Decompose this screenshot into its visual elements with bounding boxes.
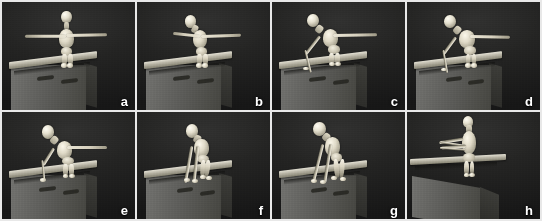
mannequin-d <box>407 2 540 110</box>
figure-panel-h: h <box>407 112 540 220</box>
mannequin-foot-joint <box>471 63 477 67</box>
panel-label-a: a <box>121 95 128 108</box>
mannequin-arm-far <box>469 35 509 39</box>
panel-label-b: b <box>255 95 263 108</box>
mannequin-foot-joint <box>202 63 208 67</box>
mannequin-foot-joint <box>61 63 67 67</box>
mannequin-hand-joint <box>320 180 326 184</box>
mannequin-foot-joint <box>206 176 212 180</box>
stage-g <box>272 112 405 220</box>
rendered-scene-e <box>2 112 135 220</box>
mannequin-hand-joint <box>192 179 198 183</box>
mannequin-arm-left <box>66 34 107 38</box>
mannequin-h <box>407 112 540 220</box>
mannequin-foot-joint <box>469 173 475 177</box>
mannequin-arm-near-upper <box>443 37 458 56</box>
figure-panel-f: f <box>137 112 270 220</box>
rendered-scene-f <box>137 112 270 220</box>
panel-label-g: g <box>390 204 398 217</box>
mannequin-arm-right-lower <box>440 147 465 151</box>
rendered-scene-b <box>137 2 270 110</box>
figure-panel-g: g <box>272 112 405 220</box>
mannequin-torso <box>57 141 73 159</box>
stage-a <box>2 2 135 110</box>
panel-label-h: h <box>525 204 533 217</box>
mannequin-arm-near-upper <box>305 36 321 55</box>
stage-c <box>272 2 405 110</box>
mannequin-a <box>2 2 135 110</box>
mannequin-f <box>137 112 270 220</box>
mannequin-hand-joint <box>311 179 317 183</box>
mannequin-g <box>272 112 405 220</box>
mannequin-foot-joint <box>63 174 69 178</box>
rendered-scene-c <box>272 2 405 110</box>
mannequin-arm-left <box>201 34 241 38</box>
mannequin-foot-joint <box>69 174 75 178</box>
mannequin-arm-near <box>312 144 324 183</box>
stage-f <box>137 112 270 220</box>
panel-label-c: c <box>391 95 398 108</box>
mannequin-foot-joint <box>331 176 337 180</box>
mannequin-arm-far <box>333 33 377 37</box>
rendered-scene-g <box>272 112 405 220</box>
stage-d <box>407 2 540 110</box>
mannequin-arm-near-upper <box>42 148 55 166</box>
rendered-scene-h <box>407 112 540 220</box>
figure-panel-d: d <box>407 2 540 110</box>
mannequin-leg-far <box>338 159 344 179</box>
rendered-scene-a <box>2 2 135 110</box>
figure-panel-b: b <box>137 2 270 110</box>
mannequin-arm-right <box>25 35 66 38</box>
mannequin-foot-joint <box>465 63 471 67</box>
mannequin-foot-joint <box>196 63 202 67</box>
mannequin-foot-joint <box>340 177 346 181</box>
mannequin-b <box>137 2 270 110</box>
mannequin-e <box>2 112 135 220</box>
mannequin-arm-far <box>67 146 107 149</box>
panel-label-f: f <box>259 204 263 217</box>
mannequin-torso <box>193 30 208 48</box>
mannequin-foot-joint <box>335 62 341 66</box>
mannequin-hand-joint <box>40 178 46 182</box>
mannequin-foot-joint <box>329 62 335 66</box>
rendered-scene-d <box>407 2 540 110</box>
mannequin-c <box>272 2 405 110</box>
stage-b <box>137 2 270 110</box>
stage-h <box>407 112 540 220</box>
panel-label-e: e <box>121 204 128 217</box>
panel-label-d: d <box>525 95 533 108</box>
figure-panel-a: a <box>2 2 135 110</box>
figure-panel-c: c <box>272 2 405 110</box>
stage-e <box>2 112 135 220</box>
mannequin-foot-joint <box>67 63 73 67</box>
figure-panel-e: e <box>2 112 135 220</box>
figure-panel-grid: a <box>0 0 542 221</box>
mannequin-torso <box>462 131 477 155</box>
mannequin-torso <box>59 29 74 48</box>
mannequin-hand-joint <box>184 178 190 182</box>
